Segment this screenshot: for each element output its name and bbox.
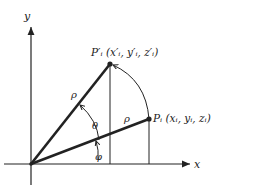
rotated-point-label: P′ᵢ (x′ᵢ, y′ᵢ, z′ᵢ) — [90, 46, 158, 58]
original-point-dot — [146, 116, 151, 121]
origin-dot — [29, 162, 33, 166]
rotated-point-dot — [107, 61, 112, 66]
rotation-diagram: y x P′ᵢ (x′ᵢ, y′ᵢ, z′ᵢ) Pᵢ (xᵢ, yᵢ, zᵢ) … — [0, 0, 268, 195]
phi-label: φ — [95, 151, 102, 162]
rotation-arc — [113, 65, 149, 119]
rho-label-lower: ρ — [123, 113, 130, 124]
original-point-label: Pᵢ (xᵢ, yᵢ, zᵢ) — [152, 112, 211, 124]
x-axis-label: x — [194, 158, 201, 171]
theta-label: θ — [92, 120, 98, 131]
rho-label-upper: ρ — [70, 89, 77, 100]
y-axis-label: y — [23, 10, 31, 23]
